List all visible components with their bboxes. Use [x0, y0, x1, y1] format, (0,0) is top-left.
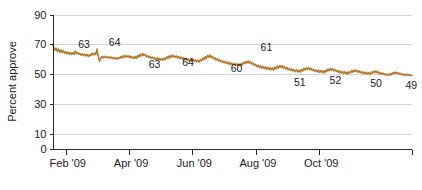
x-tick-label-3: Aug '09 [239, 157, 276, 169]
y-tick-label-30: 30 [34, 98, 46, 110]
y-axis-label: Percent approve [6, 41, 18, 122]
y-tick-label-70: 70 [34, 38, 46, 50]
annotation-4-value-60: 60 [231, 62, 243, 74]
x-tick-label-1: Apr '09 [114, 157, 149, 169]
x-tick-label-2: Jun '09 [177, 157, 212, 169]
x-axis-tick-labels: Feb '09Apr '09Jun '09Aug '09Oct '09 [50, 157, 339, 169]
chart-canvas: 01030507090 Feb '09Apr '09Jun '09Aug '09… [0, 0, 422, 190]
annotation-6-value-51: 51 [294, 76, 306, 88]
y-tick-label-0: 0 [40, 143, 46, 155]
gridlines [53, 16, 413, 135]
x-tick-label-4: Oct '09 [304, 157, 339, 169]
y-axis-title: Percent approve [6, 41, 18, 122]
y-tick-label-50: 50 [34, 68, 46, 80]
y-tick-label-90: 90 [34, 9, 46, 21]
y-tick-label-10: 10 [34, 128, 46, 140]
y-axis-tick-labels: 01030507090 [34, 9, 46, 155]
annotation-8-value-50: 50 [370, 77, 382, 89]
x-tick-label-0: Feb '09 [50, 157, 86, 169]
annotation-3-value-64: 64 [182, 56, 194, 68]
annotation-1-value-64: 64 [109, 36, 121, 48]
annotation-9-value-49: 49 [405, 79, 417, 91]
approval-rating-line-chart: 01030507090 Feb '09Apr '09Jun '09Aug '09… [0, 0, 422, 190]
annotation-0-value-63: 63 [78, 38, 90, 50]
annotation-7-value-52: 52 [330, 74, 342, 86]
annotation-5-value-61: 61 [261, 41, 273, 53]
annotation-2-value-63: 63 [149, 58, 161, 70]
axes [50, 15, 413, 155]
